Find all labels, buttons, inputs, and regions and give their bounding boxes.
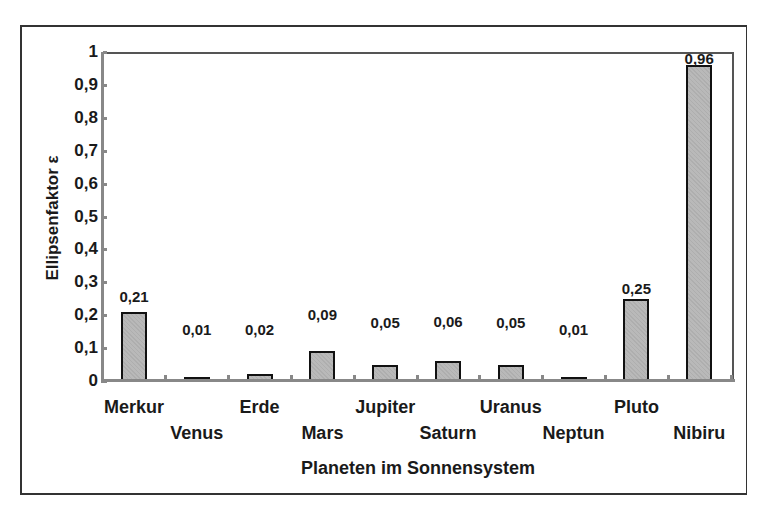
x-tick-label-neptun: Neptun (543, 423, 605, 444)
bar-pluto (623, 299, 649, 381)
value-label-venus: 0,01 (167, 321, 227, 338)
x-axis (101, 379, 735, 382)
x-tick-label-jupiter: Jupiter (355, 397, 415, 418)
value-label-nibiru: 0,96 (669, 50, 729, 67)
bar-mars (309, 351, 335, 381)
y-axis-title: Ellipsenfaktor ε (43, 155, 63, 280)
y-tick-label: 0,1 (40, 339, 98, 357)
bar-merkur (121, 312, 147, 381)
value-label-mars: 0,09 (292, 306, 352, 323)
x-tick-label-pluto: Pluto (614, 397, 659, 418)
value-label-merkur: 0,21 (104, 288, 164, 305)
y-tick-label: 0 (40, 372, 98, 390)
value-label-erde: 0,02 (230, 321, 290, 338)
y-tick-label: 0,9 (40, 76, 98, 94)
y-axis (101, 52, 104, 383)
x-tick-label-saturn: Saturn (419, 423, 476, 444)
value-label-saturn: 0,06 (418, 313, 478, 330)
x-tick-label-uranus: Uranus (480, 397, 542, 418)
x-tick-label-nibiru: Nibiru (673, 423, 725, 444)
x-tick-label-erde: Erde (240, 397, 280, 418)
y-tick-label: 0,2 (40, 306, 98, 324)
x-tick-label-mars: Mars (301, 423, 343, 444)
y-tick-label: 0,8 (40, 109, 98, 127)
y-tick-label: 1 (40, 43, 98, 61)
bar-nibiru (686, 65, 712, 381)
x-tick-label-venus: Venus (170, 423, 223, 444)
value-label-neptun: 0,01 (544, 321, 604, 338)
x-axis-title: Planeten im Sonnensystem (301, 458, 535, 479)
x-tick-label-merkur: Merkur (104, 397, 164, 418)
value-label-jupiter: 0,05 (355, 314, 415, 331)
value-label-uranus: 0,05 (481, 314, 541, 331)
value-label-pluto: 0,25 (606, 280, 666, 297)
